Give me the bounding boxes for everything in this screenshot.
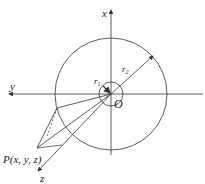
point-p-label: P(x, y, z) [2, 153, 42, 166]
r1-label: r1 [94, 76, 101, 87]
r2-label: r2 [122, 64, 129, 75]
r1-radius-line [103, 86, 110, 93]
z-axis-label: z [39, 172, 45, 184]
z-axis [38, 94, 111, 171]
y-axis-label: y [9, 80, 15, 92]
p-projection-edge [37, 108, 57, 148]
projection-line [57, 94, 111, 108]
origin-label: O [114, 97, 123, 111]
r2-radius-line [111, 56, 153, 94]
x-axis-label: x [101, 7, 107, 19]
dashed-edge [47, 108, 57, 136]
diagram-svg: x y z O r1 r2 P(x, y, z) [0, 0, 205, 184]
op-vector [37, 94, 111, 148]
spherical-coordinate-diagram: x y z O r1 r2 P(x, y, z) [0, 0, 205, 184]
